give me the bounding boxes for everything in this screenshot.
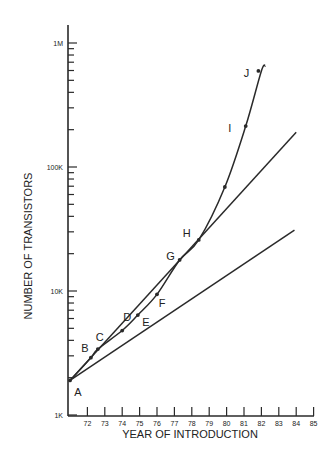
y-tick-label: 100K	[47, 164, 64, 171]
x-tick-label: 73	[101, 420, 109, 427]
x-tick-label: 77	[171, 420, 179, 427]
x-axis-title: YEAR OF INTRODUCTION	[122, 428, 258, 440]
x-tick-label: 72	[84, 420, 92, 427]
data-point	[223, 185, 227, 189]
data-point	[136, 313, 140, 317]
point-label-a: A	[74, 386, 82, 398]
data-point	[89, 356, 93, 360]
x-tick-label: 75	[136, 420, 144, 427]
x-ticks: 7273747576777879808182838485	[84, 407, 318, 427]
x-tick-label: 85	[310, 420, 318, 427]
x-tick-label: 78	[188, 420, 196, 427]
x-tick-label: 83	[275, 420, 283, 427]
x-tick-label: 76	[153, 420, 161, 427]
data-point	[96, 347, 100, 351]
point-label-c: C	[96, 331, 104, 343]
x-tick-label: 80	[223, 420, 231, 427]
x-tick-label: 81	[240, 420, 248, 427]
data-point	[178, 258, 182, 262]
x-tick-label: 79	[205, 420, 213, 427]
trend-line	[70, 132, 296, 380]
y-axis-title: NUMBER OF TRANSISTORS	[22, 173, 34, 320]
y-tick-label: 1M	[53, 40, 63, 47]
trend-line	[70, 230, 294, 380]
point-label-i: I	[228, 122, 231, 134]
y-minor-ticks	[68, 43, 77, 415]
x-tick-label: 74	[118, 420, 126, 427]
data-point	[68, 379, 72, 383]
point-label-e: E	[142, 316, 149, 328]
data-point	[120, 329, 124, 333]
point-labels: ABCDEFGHIJ	[74, 67, 249, 398]
point-label-j: J	[244, 67, 250, 79]
point-label-f: F	[159, 297, 166, 309]
data-point	[155, 292, 159, 296]
x-tick-label: 82	[258, 420, 266, 427]
transistor-count-chart: 1K10K100K1M 7273747576777879808182838485…	[0, 0, 336, 461]
point-label-g: G	[166, 250, 175, 262]
point-label-d: D	[123, 311, 131, 323]
y-tick-labels: 1K10K100K1M	[47, 40, 64, 419]
data-point	[197, 238, 201, 242]
point-label-h: H	[183, 227, 191, 239]
point-label-b: B	[81, 342, 88, 354]
data-point	[257, 69, 261, 73]
data-point	[244, 124, 248, 128]
x-tick-label: 84	[292, 420, 300, 427]
y-tick-label: 1K	[54, 412, 63, 419]
series-lines	[70, 65, 296, 380]
y-tick-label: 10K	[51, 288, 64, 295]
